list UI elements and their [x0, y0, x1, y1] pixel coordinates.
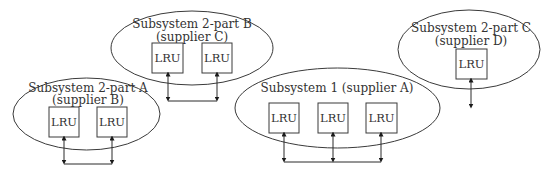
lru-label: LRU	[204, 51, 230, 65]
subsystem-2c-title: Subsystem 2-part C	[411, 21, 531, 35]
lru-label: LRU	[271, 111, 297, 125]
lru-label: LRU	[320, 111, 346, 125]
lru-label: LRU	[369, 111, 395, 125]
subsystem-2b-title: Subsystem 2-part B	[132, 17, 252, 31]
subsystem-2a: Subsystem 2-part A (supplier B) LRU LRU	[13, 78, 160, 164]
subsystem-2b-supplier: (supplier C)	[156, 30, 228, 44]
lru-label: LRU	[51, 115, 77, 129]
bus-connection-2a	[64, 138, 112, 164]
lru-subsystem-diagram: Subsystem 2-part B (supplier C) LRU LRU …	[0, 0, 550, 176]
subsystem-1: Subsystem 1 (supplier A) LRU LRU LRU	[235, 68, 440, 162]
subsystem-2c-supplier: (supplier D)	[435, 34, 508, 48]
subsystem-2c: Subsystem 2-part C (supplier D) LRU	[398, 10, 540, 106]
subsystem-2a-supplier: (supplier B)	[52, 93, 124, 107]
lru-label: LRU	[155, 51, 181, 65]
subsystem-1-title: Subsystem 1 (supplier A)	[261, 81, 414, 95]
bus-connection-2b	[168, 74, 217, 101]
bus-connection-1	[284, 134, 381, 162]
lru-label: LRU	[459, 57, 485, 71]
lru-label: LRU	[99, 115, 125, 129]
